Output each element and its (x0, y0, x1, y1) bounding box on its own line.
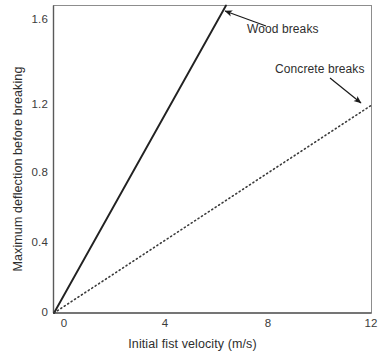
y-axis-title-container: Maximum deflection before breaking (11, 13, 29, 325)
annotation-label-concrete-breaks: Concrete breaks (275, 62, 365, 76)
x-tick-label-4: 4 (150, 317, 180, 329)
plot-canvas (0, 0, 385, 361)
series-wood-breaks (54, 6, 226, 314)
chart-figure: 1.6 1.2 0.8 0.4 0 0 4 8 12 Initial fist … (0, 0, 385, 361)
plot-frame (54, 6, 372, 314)
x-axis-title: Initial fist velocity (m/s) (0, 337, 385, 351)
x-tick-label-0: 0 (49, 317, 79, 329)
x-tick-label-12: 12 (356, 317, 385, 329)
annotation-label-wood-breaks: Wood breaks (247, 22, 319, 36)
series-concrete-breaks (54, 106, 371, 314)
x-tick-label-8: 8 (253, 317, 283, 329)
y-axis-title: Maximum deflection before breaking (11, 13, 25, 325)
annotation-arrow-concrete (330, 78, 361, 103)
